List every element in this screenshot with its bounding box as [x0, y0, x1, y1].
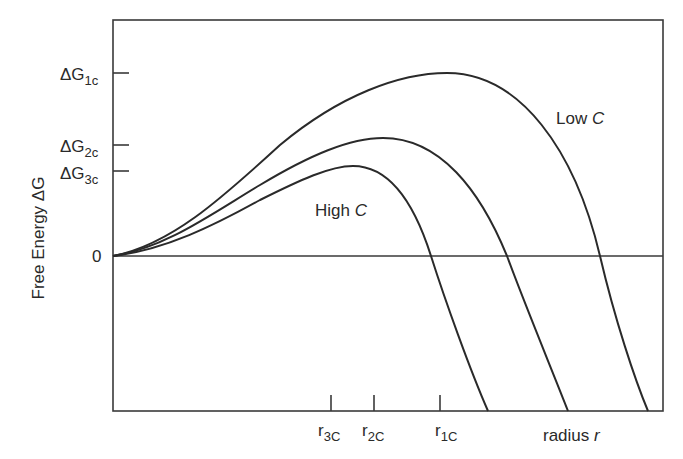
- y-label-zero: 0: [92, 247, 101, 266]
- y-label-g2c: ΔG2c: [60, 137, 99, 160]
- y-label-g3c: ΔG3c: [60, 164, 99, 187]
- plot-frame: [113, 20, 663, 411]
- x-axis-title: radius r: [543, 426, 601, 445]
- curve-high-c: [113, 166, 488, 411]
- y-axis-title: Free Energy ΔG: [29, 177, 48, 300]
- x-label-r2c: r2C: [362, 421, 384, 444]
- x-label-r3c: r3C: [318, 421, 340, 444]
- y-label-g1c: ΔG1c: [60, 65, 99, 88]
- low-c-annotation: Low C: [556, 109, 605, 128]
- high-c-annotation: High C: [315, 201, 368, 220]
- free-energy-diagram: Free Energy ΔG ΔG1c ΔG2c ΔG3c 0 r3C r2C …: [0, 0, 683, 459]
- x-label-r1c: r1C: [435, 421, 457, 444]
- curve-mid-c: [113, 138, 568, 411]
